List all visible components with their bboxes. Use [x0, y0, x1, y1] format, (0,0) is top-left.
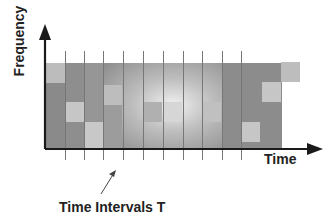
- axes: [0, 0, 336, 223]
- time-intervals-annotation: Time Intervals T: [59, 199, 165, 215]
- x-axis-label: Time: [264, 151, 296, 167]
- y-axis-label: Frequency: [6, 5, 36, 85]
